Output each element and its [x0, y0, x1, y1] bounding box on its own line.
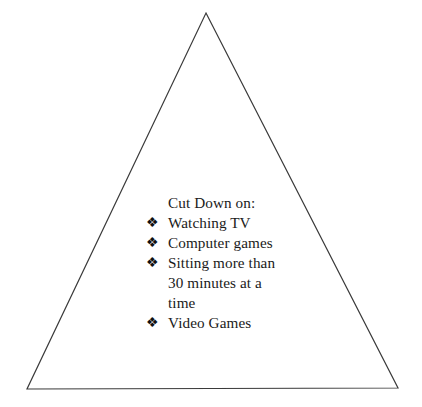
diamond-bullet-icon: ❖ — [146, 213, 160, 233]
diamond-bullet-icon: ❖ — [146, 253, 160, 273]
list-item: ❖ Sitting more than 30 minutes at a time — [140, 253, 360, 313]
list-item: ❖ Watching TV — [140, 213, 360, 233]
diamond-bullet-icon: ❖ — [146, 233, 160, 253]
list-item-label: Watching TV — [168, 213, 290, 233]
cut-down-heading: Cut Down on: — [168, 193, 360, 213]
list-item-label: Video Games — [168, 313, 290, 333]
cut-down-list: ❖ Watching TV ❖ Computer games ❖ Sitting… — [140, 213, 360, 333]
diagram-canvas: Cut Down on: ❖ Watching TV ❖ Computer ga… — [0, 0, 422, 407]
list-item: ❖ Computer games — [140, 233, 360, 253]
list-item-label: Computer games — [168, 233, 290, 253]
diamond-bullet-icon: ❖ — [146, 313, 160, 333]
list-item: ❖ Video Games — [140, 313, 360, 333]
list-item-label: Sitting more than 30 minutes at a time — [168, 253, 290, 313]
pyramid-text-block: Cut Down on: ❖ Watching TV ❖ Computer ga… — [140, 193, 360, 333]
